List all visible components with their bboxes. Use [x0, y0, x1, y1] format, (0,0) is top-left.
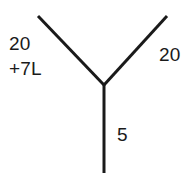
- lower-stem-branch-label: 5: [117, 125, 128, 145]
- junction-diagram-svg: [0, 0, 191, 178]
- upper-left-branch-line: [38, 16, 104, 85]
- y-junction-figure: 20 +7L 20 5: [0, 0, 191, 178]
- upper-right-branch-label: 20: [159, 45, 181, 65]
- upper-left-branch-sublabel: +7L: [9, 59, 42, 79]
- upper-left-branch-label: 20: [9, 34, 31, 54]
- left-branch-label-group: 20 +7L: [9, 34, 42, 79]
- upper-right-branch-line: [104, 16, 167, 85]
